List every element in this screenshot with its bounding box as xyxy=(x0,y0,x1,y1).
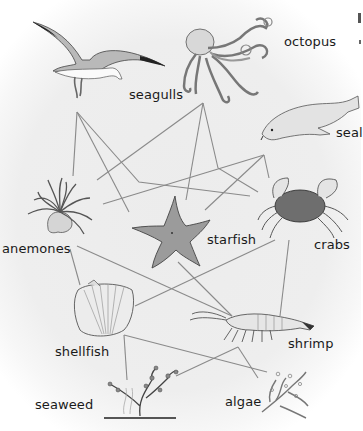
algae-icon xyxy=(262,372,308,418)
starfish-icon xyxy=(132,196,210,268)
link-seal-crabs xyxy=(264,155,269,178)
organism-label-starfish: starfish xyxy=(207,233,256,246)
organism-label-seal: seal xyxy=(336,126,363,139)
cropped-edge-dot xyxy=(359,40,361,44)
link-octopus-crabs xyxy=(203,103,258,192)
organism-label-crabs: crabs xyxy=(314,238,350,251)
organism-label-octopus: octopus xyxy=(284,35,336,48)
link-seagulls-anemones xyxy=(73,112,77,176)
crab-icon xyxy=(258,178,348,238)
organism-label-anemones: anemones xyxy=(2,242,71,255)
anemone-icon xyxy=(28,178,92,234)
link-seagulls-crabs xyxy=(77,112,250,196)
organism-label-shrimp: shrimp xyxy=(288,337,333,350)
octopus-icon xyxy=(184,18,272,102)
link-crabs-shrimp xyxy=(280,240,289,316)
link-starfish-shrimp xyxy=(178,262,232,316)
link-shrimp-algae xyxy=(238,347,258,378)
link-seal-anemones xyxy=(103,155,264,204)
link-seal-starfish xyxy=(205,155,264,210)
organism-label-shellfish: shellfish xyxy=(55,345,109,358)
link-anemones-shellfish xyxy=(70,249,80,285)
cropped-edge-mark xyxy=(358,13,361,23)
organism-label-seaweed: seaweed xyxy=(35,398,93,411)
organism-label-seagulls: seagulls xyxy=(129,88,183,101)
shellfish-icon xyxy=(74,280,133,336)
seaweed-icon xyxy=(104,366,178,418)
link-shellfish-seaweed xyxy=(124,335,127,380)
link-crabs-shellfish xyxy=(135,240,275,306)
link-octopus-anemones xyxy=(97,103,203,180)
link-octopus-starfish xyxy=(186,103,203,200)
organism-label-algae: algae xyxy=(225,395,261,408)
